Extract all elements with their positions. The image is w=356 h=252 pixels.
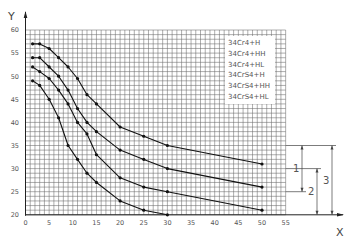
x-tick: 20 [116, 219, 124, 227]
data-point [95, 153, 98, 156]
x-axis-label: X [336, 226, 344, 239]
series-line [33, 81, 168, 215]
data-point [119, 199, 122, 202]
y-tick: 25 [11, 188, 19, 196]
data-point [119, 149, 122, 152]
data-point [38, 42, 41, 45]
y-tick: 40 [11, 119, 19, 127]
data-point [38, 56, 41, 59]
data-point [166, 190, 169, 193]
data-point [66, 88, 69, 91]
x-tick-labels: 0510152025303540455055 [23, 219, 289, 227]
data-point [66, 65, 69, 68]
y-tick: 45 [11, 96, 19, 104]
data-point [76, 158, 79, 161]
data-point [57, 88, 60, 91]
data-point [76, 77, 79, 80]
x-tick: 25 [140, 219, 148, 227]
data-point [85, 132, 88, 135]
x-tick: 30 [163, 219, 171, 227]
annotation-label: 2 [308, 186, 314, 197]
data-point [95, 102, 98, 105]
data-point [38, 70, 41, 73]
data-point [57, 56, 60, 59]
legend-entry: 34CrS4+HL [228, 93, 269, 101]
x-tick: 40 [211, 219, 219, 227]
data-point [260, 162, 263, 165]
x-tick: 45 [234, 219, 242, 227]
legend-entry: 34CrS4+H [228, 71, 265, 79]
data-point [142, 158, 145, 161]
legend-entry: 34Cr4+H [228, 39, 260, 47]
axes [24, 11, 344, 217]
data-point [48, 98, 51, 101]
range-annotations: 123 [286, 146, 336, 215]
annotation-label: 1 [293, 163, 299, 174]
annotation-label: 3 [323, 175, 329, 186]
data-point [85, 93, 88, 96]
data-point [260, 209, 263, 212]
data-point [38, 84, 41, 87]
data-point [95, 130, 98, 133]
x-tick: 35 [187, 219, 195, 227]
legend-entry: 34CrS4+HH [228, 82, 270, 90]
y-tick: 50 [11, 73, 19, 81]
data-point [142, 135, 145, 138]
x-tick: 50 [258, 219, 266, 227]
data-point [85, 121, 88, 124]
data-point [48, 77, 51, 80]
x-tick: 55 [282, 219, 290, 227]
data-point [48, 65, 51, 68]
y-tick: 30 [11, 165, 19, 173]
data-point [31, 56, 34, 59]
x-tick: 15 [92, 219, 100, 227]
data-point [66, 144, 69, 147]
data-point [166, 167, 169, 170]
data-point [119, 125, 122, 128]
data-point [31, 79, 34, 82]
data-point [57, 75, 60, 78]
data-point [76, 121, 79, 124]
y-tick: 20 [11, 211, 19, 219]
data-point [119, 176, 122, 179]
data-point [85, 172, 88, 175]
data-point [95, 181, 98, 184]
data-point [31, 65, 34, 68]
legend: 34Cr4+H34Cr4+HH34Cr4+HL34CrS4+H34CrS4+HH… [225, 36, 275, 104]
data-point [142, 209, 145, 212]
x-tick: 0 [23, 219, 27, 227]
data-point [166, 213, 169, 216]
legend-entry: 34Cr4+HL [228, 61, 264, 69]
legend-entry: 34Cr4+HH [228, 50, 266, 58]
y-tick-labels: 202530354045505560 [11, 26, 19, 219]
data-point [260, 185, 263, 188]
y-tick: 35 [11, 142, 19, 150]
data-point [66, 102, 69, 105]
data-point [57, 116, 60, 119]
data-point [76, 107, 79, 110]
y-axis-label: Y [7, 10, 15, 23]
y-tick: 60 [11, 26, 19, 34]
data-point [31, 42, 34, 45]
x-tick: 5 [47, 219, 51, 227]
hardenability-chart: 202530354045505560 051015202530354045505… [0, 0, 356, 252]
data-point [166, 144, 169, 147]
data-point [48, 47, 51, 50]
data-point [142, 185, 145, 188]
y-tick: 55 [11, 49, 19, 57]
x-tick: 10 [69, 219, 77, 227]
